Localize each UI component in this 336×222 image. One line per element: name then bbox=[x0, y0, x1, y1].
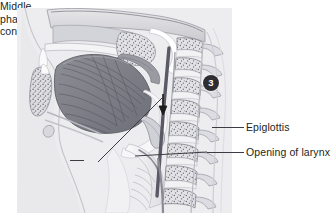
label-opening-of-larynx: Opening of larynx bbox=[246, 146, 330, 159]
step-number-text: 3 bbox=[203, 75, 219, 91]
anatomy-illustration bbox=[17, 8, 232, 213]
leader-line-opening-of-larynx bbox=[207, 152, 244, 153]
anatomy-figure: 3 Epiglottis Opening of larynx Middle ph… bbox=[0, 0, 336, 222]
label-epiglottis: Epiglottis bbox=[246, 121, 290, 134]
leader-line-epiglottis bbox=[212, 127, 244, 128]
leader-line-mpc-stub bbox=[70, 160, 84, 161]
illustration-panel bbox=[17, 8, 232, 213]
step-number-badge: 3 bbox=[203, 75, 219, 91]
